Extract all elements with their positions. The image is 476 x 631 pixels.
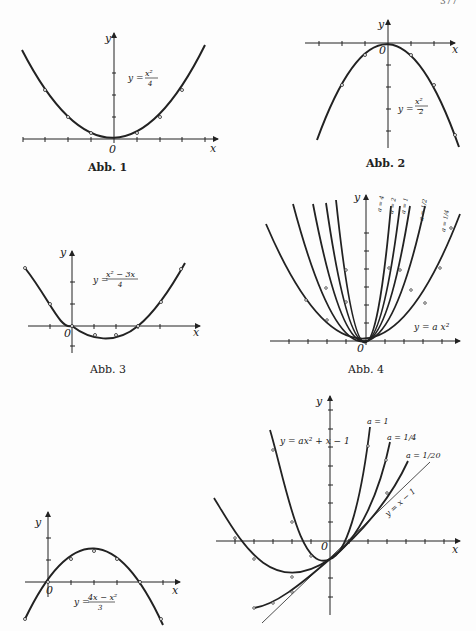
equation-numerator: x²: [415, 97, 423, 106]
x-axis-label: x: [452, 43, 459, 56]
equation-denominator: 3: [98, 604, 103, 612]
figure-abb6: [214, 396, 460, 623]
x-axis-label: x: [172, 584, 179, 597]
y-axis-label: y: [104, 32, 112, 45]
y-axis-label: y: [377, 18, 385, 31]
curve-label: a = 1: [399, 197, 409, 214]
figure-abb3: [24, 251, 201, 353]
origin-label: 0: [357, 342, 364, 355]
y-axis-label: y: [34, 516, 42, 529]
y-axis-label: y: [353, 191, 361, 204]
figure-caption-abb2: Abb. 2: [366, 157, 405, 170]
y-axis-label: y: [315, 395, 323, 408]
curve-label: a = 2: [387, 197, 397, 214]
figure-abb2: [305, 20, 459, 148]
origin-label: 0: [321, 540, 328, 553]
curve-label: a = 1/4: [439, 209, 450, 232]
origin-label: 0: [379, 44, 386, 57]
x-axis-label: x: [193, 326, 200, 339]
equation-label: y = a x²: [413, 322, 450, 332]
curve-label: a = 1/20: [406, 451, 441, 460]
curve-label: a = 1/2: [417, 198, 428, 221]
origin-label: 0: [64, 327, 71, 340]
origin-label: 0: [109, 143, 116, 156]
equation-denominator: 4: [117, 281, 122, 289]
equation-numerator: x²: [145, 69, 153, 78]
equation-denominator: 2: [418, 108, 424, 116]
curve-label: a = 4: [375, 195, 385, 212]
y-axis-label: y: [59, 246, 67, 259]
figures-canvas: y x 0 y = x² 4 y x 0 y = − x² 2 y x 0 y …: [0, 0, 476, 631]
figure-caption-abb1: Abb. 1: [88, 161, 127, 174]
origin-label: 0: [46, 584, 53, 597]
figure-caption-abb3: Abb. 3: [90, 363, 126, 376]
equation-left: y =: [127, 73, 144, 83]
curve-label: a = 1: [367, 417, 389, 426]
equation-numerator: 4x − x²: [87, 593, 117, 602]
x-axis-label: x: [210, 142, 217, 155]
equation-numerator: x² − 3x: [106, 270, 136, 279]
figure-abb1: [22, 33, 218, 143]
x-axis-label: x: [452, 543, 459, 556]
curve-label: a = 1/4: [387, 433, 416, 442]
equation-denominator: 4: [147, 80, 152, 88]
figure-caption-abb4: Abb. 4: [348, 363, 384, 376]
equation-label: y = ax² + x − 1: [279, 436, 350, 446]
